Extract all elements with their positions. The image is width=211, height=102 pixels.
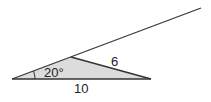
base-label: 10 — [74, 81, 88, 96]
side-six-label: 6 — [111, 54, 118, 69]
triangle-diagram: 20° 6 10 — [0, 0, 211, 102]
angle-label: 20° — [44, 65, 64, 80]
